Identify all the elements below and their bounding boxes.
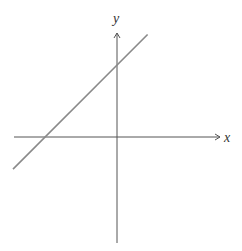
y-axis-label: y	[111, 11, 120, 26]
x-axis-label: x	[223, 130, 231, 145]
series-line-0	[13, 35, 148, 170]
plot-canvas: x y	[0, 0, 242, 251]
